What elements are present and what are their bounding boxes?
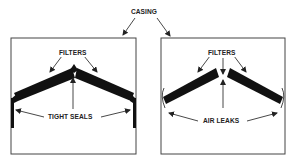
filter-seal-diagram: CASING FILTERS TIGHT SEALS FILTERS AIR L… bbox=[0, 0, 298, 161]
tight-seals-label: TIGHT SEALS bbox=[47, 113, 93, 121]
left-filters-label: FILTERS bbox=[58, 49, 87, 57]
diagram-graphic bbox=[0, 0, 298, 161]
right-filters-label: FILTERS bbox=[207, 49, 236, 57]
casing-arrows bbox=[123, 18, 170, 36]
air-leaks-label: AIR LEAKS bbox=[202, 117, 240, 125]
casing-label: CASING bbox=[130, 8, 158, 16]
